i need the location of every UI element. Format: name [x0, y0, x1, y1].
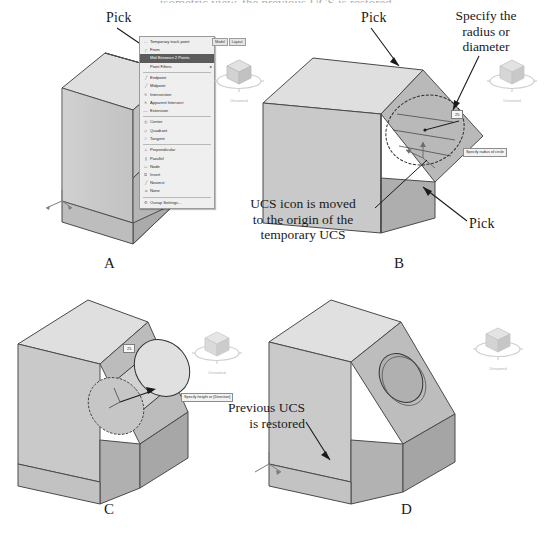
- parallel-icon: ∥: [141, 155, 150, 163]
- panel-letter-d: D: [401, 501, 412, 518]
- menu-divider: [143, 72, 211, 73]
- ctx-item-endpoint[interactable]: ╱ Endpoint: [140, 74, 214, 82]
- nav-btn-model[interactable]: Model: [212, 38, 228, 46]
- ctx-item-intersection[interactable]: ✕ Intersection: [140, 91, 214, 99]
- center-icon: ◎: [141, 118, 150, 126]
- ctx-item-parallel[interactable]: ∥ Parallel: [140, 155, 214, 163]
- panel-b: 25 Specify radius of circle Pick Specify…: [273, 18, 545, 283]
- viewcube-label-c: Unnamed: [190, 370, 244, 375]
- ctx-item-center[interactable]: ◎ Center: [140, 118, 214, 126]
- cut-off-heading: ...isometric view, the previous UCS is r…: [0, 0, 545, 3]
- leader-specify-radius: [433, 54, 493, 118]
- panel-letter-b: B: [394, 255, 404, 272]
- endpoint-icon: ╱: [141, 74, 150, 82]
- ctx-item-none[interactable]: ⌀ None: [140, 187, 214, 195]
- ctx-item-extension[interactable]: — Extension: [140, 107, 214, 115]
- viewcube-d[interactable]: [471, 316, 525, 364]
- leader-previous-ucs: [304, 420, 344, 470]
- menu-divider: [143, 197, 211, 198]
- nav-btn-layout[interactable]: Layout: [229, 38, 246, 46]
- ctx-item-node[interactable]: □ Node: [140, 163, 214, 171]
- viewcube-c[interactable]: [190, 320, 244, 368]
- dynamic-input-height-value[interactable]: 25: [123, 344, 135, 353]
- annotation-ucs-moved: UCS icon is moved to the origin of the t…: [233, 196, 373, 243]
- ctx-item-osnap-settings[interactable]: ⚙ Osnap Settings...: [140, 199, 214, 207]
- gear-icon: ⚙: [141, 199, 150, 207]
- nearest-icon: ╱: [141, 179, 150, 187]
- track-point-icon: ↔: [141, 38, 150, 46]
- none-icon: ⌀: [141, 187, 150, 195]
- ctx-item-from[interactable]: ┌ From: [140, 46, 214, 54]
- extension-icon: —: [141, 107, 150, 115]
- menu-divider: [143, 144, 211, 145]
- insert-icon: ⧉: [141, 171, 150, 179]
- viewcube-label-b: Unnamed: [485, 98, 539, 103]
- annotation-pick-b-top: Pick: [361, 10, 387, 26]
- dynamic-input-radius-tooltip: Specify radius of circle: [463, 148, 507, 157]
- from-icon: ┌: [141, 46, 150, 54]
- leader-pick-b-top: [359, 26, 419, 74]
- annotation-pick-a: Pick: [106, 10, 132, 26]
- ctx-group-4: ⚙ Osnap Settings...: [140, 199, 214, 207]
- nav-toolbar-a[interactable]: Model Layout: [212, 38, 246, 46]
- intersection-icon: ✕: [141, 91, 150, 99]
- ctx-item-temporary-track-point[interactable]: ↔ Temporary track point: [140, 38, 214, 46]
- apparent-intersect-icon: ✕: [141, 99, 150, 107]
- ctx-group-2: ◎ Center ◇ Quadrant ○ Tangent: [140, 118, 214, 143]
- viewcube-a[interactable]: [212, 48, 266, 96]
- viewcube-label-d: Unnamed: [471, 366, 525, 371]
- ctx-item-tangent[interactable]: ○ Tangent: [140, 135, 214, 143]
- leader-pick-b-bottom: [413, 183, 475, 227]
- viewcube-label-a: Unnamed: [212, 98, 266, 103]
- menu-divider: [143, 116, 211, 117]
- ctx-item-mid-between-2-points[interactable]: Mid Between 2 Points: [140, 54, 214, 62]
- object-snap-context-menu[interactable]: ↔ Temporary track point ┌ From Mid Betwe…: [139, 36, 215, 209]
- panel-d: Previous UCS is restored Unnamed D: [273, 292, 545, 542]
- quadrant-icon: ◇: [141, 127, 150, 135]
- annotation-previous-ucs: Previous UCS is restored: [205, 400, 305, 431]
- node-icon: □: [141, 163, 150, 171]
- panel-letter-a: A: [104, 255, 115, 272]
- ctx-item-midpoint[interactable]: ╱ Midpoint: [140, 82, 214, 90]
- viewcube-b[interactable]: [485, 48, 539, 96]
- panel-letter-c: C: [104, 501, 114, 518]
- panel-a: Pick ↔ Temporary track point ┌ From Mid …: [0, 18, 272, 283]
- ctx-group-0: ↔ Temporary track point ┌ From Mid Betwe…: [140, 38, 214, 71]
- ctx-group-3: ⊥ Perpendicular ∥ Parallel □ Node ⧉ Inse…: [140, 146, 214, 195]
- ctx-item-point-filters[interactable]: Point Filters ▸: [140, 63, 214, 71]
- ctx-item-perpendicular[interactable]: ⊥ Perpendicular: [140, 146, 214, 154]
- ctx-item-nearest[interactable]: ╱ Nearest: [140, 179, 214, 187]
- midpoint-icon: ╱: [141, 82, 150, 90]
- figure-page: ...isometric view, the previous UCS is r…: [0, 0, 545, 542]
- tangent-icon: ○: [141, 135, 150, 143]
- perpendicular-icon: ⊥: [141, 146, 150, 154]
- ctx-group-1: ╱ Endpoint ╱ Midpoint ✕ Intersection ✕ A…: [140, 74, 214, 115]
- ctx-item-quadrant[interactable]: ◇ Quadrant: [140, 127, 214, 135]
- ctx-item-apparent-intersect[interactable]: ✕ Apparent Intersect: [140, 99, 214, 107]
- ctx-item-insert[interactable]: ⧉ Insert: [140, 171, 214, 179]
